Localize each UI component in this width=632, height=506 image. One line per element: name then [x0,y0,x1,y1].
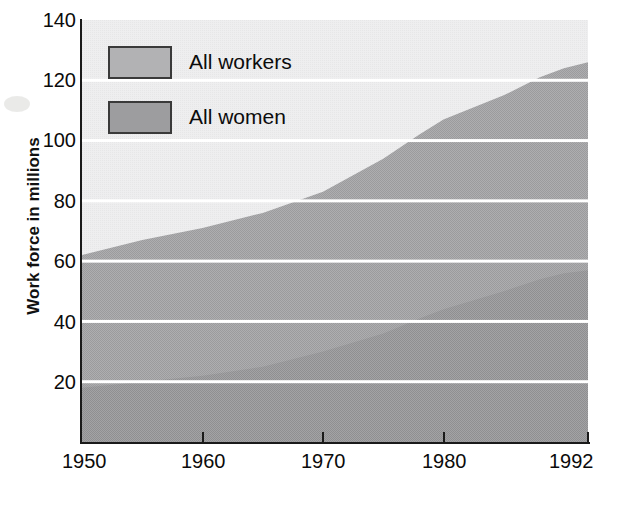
y-tick-label: 120 [30,70,76,90]
gridline [82,260,588,263]
x-axis-tick [443,432,445,444]
gridline [82,380,588,383]
y-tick-label: 20 [30,372,76,392]
x-axis-tick [322,432,324,444]
y-tick-label: 80 [30,191,76,211]
y-axis-line [80,19,82,444]
gridline [82,139,588,142]
gridline [82,320,588,323]
y-axis-tick-labels: 140 120 100 80 60 40 20 [26,0,76,506]
x-axis-tick [202,432,204,444]
x-tick-label: 1960 [181,450,226,473]
plot-area: All workers All women [82,20,588,442]
chart-legend: All workers All women [108,40,358,139]
x-tick-label: 1950 [62,450,107,473]
legend-label-all-women: All women [189,105,286,129]
x-tick-label: 1980 [422,450,467,473]
legend-label-all-workers: All workers [189,50,292,74]
x-tick-label: 1992 [549,450,594,473]
y-tick-label: 140 [30,10,76,30]
y-tick-label: 100 [30,130,76,150]
legend-swatch-all-women [108,101,172,134]
x-axis-tick [587,432,589,444]
y-tick-label: 40 [30,312,76,332]
gridline [82,199,588,202]
x-axis-line [80,442,590,444]
y-tick-label: 60 [30,251,76,271]
legend-item-all-women: All women [108,95,358,139]
chart-page: Work force in millions 140 120 100 80 60… [0,0,632,506]
legend-item-all-workers: All workers [108,40,358,84]
legend-swatch-all-workers [108,46,172,79]
x-tick-label: 1970 [301,450,346,473]
